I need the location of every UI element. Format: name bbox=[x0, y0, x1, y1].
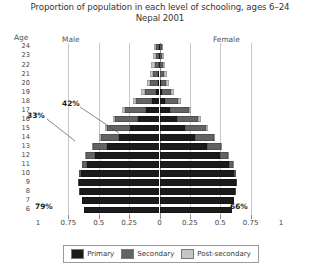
x-tick bbox=[129, 215, 130, 219]
segment-primary bbox=[160, 134, 196, 140]
segment-primary bbox=[160, 197, 235, 203]
y-tick-label-age-19: 19 bbox=[8, 88, 30, 96]
segment-primary bbox=[160, 152, 220, 158]
segment-secondary bbox=[125, 107, 146, 113]
legend-label-primary: Primary bbox=[87, 250, 114, 258]
bar-male-age-9 bbox=[78, 179, 159, 185]
population-pyramid-chart: Proportion of population in each level o… bbox=[0, 0, 320, 271]
segment-secondary bbox=[165, 98, 178, 104]
pyramid-row bbox=[38, 124, 281, 132]
bar-male-age-23 bbox=[153, 53, 160, 59]
segment-post bbox=[214, 134, 215, 140]
bar-female-age-13 bbox=[160, 143, 223, 149]
bar-male-age-17 bbox=[122, 107, 160, 113]
segment-secondary bbox=[145, 89, 156, 95]
y-tick-label-age-20: 20 bbox=[8, 79, 30, 87]
x-tick-label: 0.75 bbox=[236, 219, 266, 227]
x-tick-label: 0.25 bbox=[114, 219, 144, 227]
pyramid-row bbox=[38, 170, 281, 178]
bar-female-age-9 bbox=[160, 179, 238, 185]
pyramid-row bbox=[38, 161, 281, 169]
y-tick-label-age-21: 21 bbox=[8, 70, 30, 78]
annotation-female-age16-total: 42% bbox=[62, 99, 80, 108]
y-tick-label-age-6: 6 bbox=[8, 205, 30, 213]
segment-secondary bbox=[107, 125, 129, 131]
segment-secondary bbox=[93, 143, 108, 149]
bar-female-age-8 bbox=[160, 188, 236, 194]
segment-primary bbox=[119, 134, 159, 140]
legend-label-secondary: Secondary bbox=[137, 250, 174, 258]
segment-primary bbox=[82, 197, 160, 203]
segment-post bbox=[166, 80, 169, 86]
x-tick bbox=[160, 215, 161, 219]
segment-post bbox=[189, 107, 192, 113]
x-tick-label: 1 bbox=[266, 219, 296, 227]
bar-female-age-10 bbox=[160, 170, 237, 176]
segment-secondary bbox=[236, 179, 237, 185]
segment-secondary bbox=[234, 170, 236, 176]
bar-female-age-23 bbox=[160, 53, 164, 59]
bar-male-age-13 bbox=[92, 143, 160, 149]
plot-area bbox=[38, 43, 281, 215]
legend-swatch-post bbox=[181, 249, 194, 259]
segment-secondary bbox=[150, 80, 157, 86]
bar-female-age-22 bbox=[160, 62, 165, 68]
bar-male-age-16 bbox=[113, 116, 160, 122]
pyramid-row bbox=[38, 179, 281, 187]
y-tick-label-age-15: 15 bbox=[8, 124, 30, 132]
y-tick-label-age-11: 11 bbox=[8, 160, 30, 168]
segment-primary bbox=[79, 179, 159, 185]
pyramid-row bbox=[38, 143, 281, 151]
bar-male-age-21 bbox=[150, 71, 160, 77]
segment-primary bbox=[160, 207, 233, 213]
segment-post bbox=[206, 125, 208, 131]
segment-secondary bbox=[86, 152, 95, 158]
x-tick-label: 0.5 bbox=[84, 219, 114, 227]
bar-male-age-10 bbox=[79, 170, 160, 176]
bar-female-age-18 bbox=[160, 98, 182, 104]
bar-female-age-20 bbox=[160, 80, 170, 86]
chart-legend: PrimarySecondaryPost-secondary bbox=[63, 245, 259, 263]
bar-female-age-19 bbox=[160, 89, 174, 95]
segment-primary bbox=[152, 98, 159, 104]
segment-primary bbox=[81, 170, 159, 176]
y-tick-label-age-23: 23 bbox=[8, 51, 30, 59]
bar-male-age-8 bbox=[79, 188, 159, 194]
y-tick-label-age-14: 14 bbox=[8, 133, 30, 141]
segment-primary bbox=[160, 170, 235, 176]
y-tick-label-age-8: 8 bbox=[8, 187, 30, 195]
x-tick bbox=[190, 215, 191, 219]
annotation-male-age15-total: 33% bbox=[27, 111, 45, 120]
x-tick bbox=[251, 215, 252, 219]
chart-title: Proportion of population in each level o… bbox=[0, 2, 320, 13]
legend-item-post: Post-secondary bbox=[181, 249, 250, 259]
legend-swatch-primary bbox=[71, 249, 84, 259]
x-tick bbox=[220, 215, 221, 219]
segment-primary bbox=[160, 116, 178, 122]
bar-female-age-16 bbox=[160, 116, 201, 122]
y-tick-label-age-13: 13 bbox=[8, 142, 30, 150]
bar-female-age-21 bbox=[160, 71, 167, 77]
segment-primary bbox=[160, 107, 171, 113]
chart-title-block: Proportion of population in each level o… bbox=[0, 2, 320, 24]
segment-primary bbox=[160, 179, 237, 185]
segment-secondary bbox=[177, 116, 198, 122]
bar-female-age-24 bbox=[160, 44, 164, 50]
y-tick-label-age-7: 7 bbox=[8, 196, 30, 204]
x-tick bbox=[99, 215, 100, 219]
bar-female-age-17 bbox=[160, 107, 192, 113]
pyramid-row bbox=[38, 152, 281, 160]
pyramid-row bbox=[38, 88, 281, 96]
segment-post bbox=[198, 116, 200, 122]
segment-secondary bbox=[220, 152, 229, 158]
x-tick bbox=[68, 215, 69, 219]
bar-male-age-22 bbox=[151, 62, 159, 68]
legend-item-secondary: Secondary bbox=[121, 249, 174, 259]
bar-male-age-12 bbox=[85, 152, 159, 158]
x-tick-label: 1 bbox=[23, 219, 53, 227]
segment-secondary bbox=[207, 143, 221, 149]
x-tick-label: 0 bbox=[145, 219, 175, 227]
bar-male-age-18 bbox=[133, 98, 160, 104]
pyramid-row bbox=[38, 134, 281, 142]
segment-primary bbox=[95, 152, 159, 158]
